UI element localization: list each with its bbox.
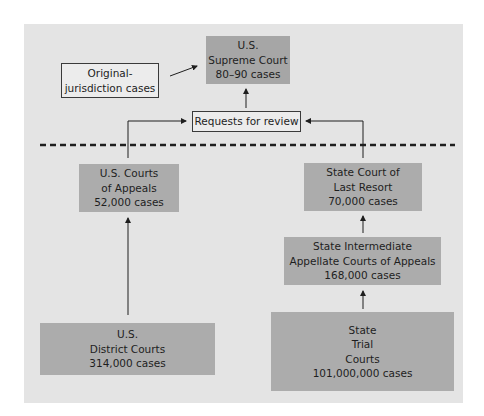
node-line: Supreme Court (208, 53, 287, 68)
node-line: 168,000 cases (324, 268, 400, 283)
node-line: Appellate Courts of Appeals (289, 254, 435, 269)
node-line: jurisdiction cases (65, 81, 156, 96)
node-line: State Court of (326, 165, 399, 180)
node-line: Last Resort (334, 180, 393, 195)
arrow-original-to-supreme (170, 66, 197, 76)
node-original-jurisdiction: Original- jurisdiction cases (61, 63, 159, 98)
node-state-last-resort: State Court of Last Resort 70,000 cases (304, 163, 422, 211)
arrow-us-appeals-to-requests (128, 121, 186, 158)
node-line: 101,000,000 cases (313, 366, 413, 381)
node-state-intermediate: State Intermediate Appellate Courts of A… (284, 237, 441, 285)
node-line: State (349, 323, 377, 338)
node-requests-for-review: Requests for review (192, 111, 301, 132)
node-line: Original- (88, 66, 133, 81)
node-line: Trial (352, 337, 373, 352)
node-line: U.S. (237, 38, 258, 53)
node-line: Requests for review (195, 114, 299, 129)
node-line: 70,000 cases (328, 194, 398, 209)
node-line: of Appeals (101, 181, 156, 196)
node-supreme-court: U.S. Supreme Court 80–90 cases (206, 36, 290, 84)
node-line: 314,000 cases (89, 356, 165, 371)
node-us-district-courts: U.S. District Courts 314,000 cases (40, 323, 215, 375)
node-state-trial-courts: State Trial Courts 101,000,000 cases (271, 312, 454, 391)
node-us-courts-of-appeals: U.S. Courts of Appeals 52,000 cases (79, 164, 179, 212)
node-line: 52,000 cases (94, 195, 164, 210)
node-line: State Intermediate (313, 239, 412, 254)
arrow-state-resort-to-requests (306, 121, 363, 158)
node-line: U.S. (117, 327, 138, 342)
node-line: U.S. Courts (100, 166, 159, 181)
node-line: District Courts (90, 342, 165, 357)
node-line: 80–90 cases (216, 67, 281, 82)
node-line: Courts (345, 352, 379, 367)
